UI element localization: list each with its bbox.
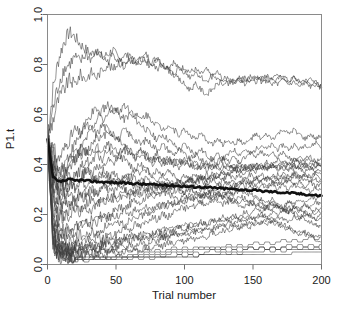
x-tick-label: 200 <box>312 274 330 286</box>
p1t-line-chart: 050100150200 0.00.20.40.60.81.0 Trial nu… <box>0 0 340 317</box>
y-tick-label: 0.0 <box>32 257 44 272</box>
x-tick-label: 100 <box>175 274 193 286</box>
y-tick-label: 0.2 <box>32 207 44 222</box>
y-axis-title: P1.t <box>4 128 16 149</box>
chart-figure: 050100150200 0.00.20.40.60.81.0 Trial nu… <box>0 0 340 317</box>
x-tick-label: 0 <box>44 274 50 286</box>
y-tick-label: 0.8 <box>32 57 44 72</box>
y-tick-label: 0.6 <box>32 107 44 122</box>
x-axis-title: Trial number <box>152 289 216 301</box>
y-tick-label: 1.0 <box>32 7 44 22</box>
y-tick-label: 0.4 <box>32 157 44 172</box>
x-tick-label: 50 <box>110 274 122 286</box>
x-tick-label: 150 <box>244 274 262 286</box>
